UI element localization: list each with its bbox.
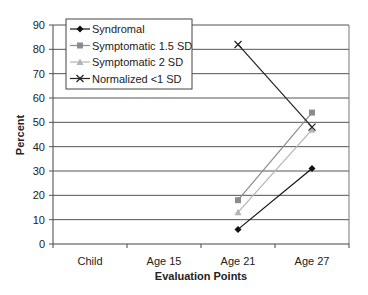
series-symptomatic-1-5-sd [235, 110, 315, 204]
y-tick-label: 90 [33, 19, 45, 31]
x-tick-label: Age 21 [221, 255, 256, 267]
y-tick-label: 10 [33, 214, 45, 226]
series-syndromal [235, 165, 316, 233]
line-chart: 0102030405060708090 ChildAge 15Age 21Age… [0, 0, 368, 295]
y-axis-ticks: 0102030405060708090 [33, 19, 53, 250]
legend: SyndromalSymptomatic 1.5 SDSymptomatic 2… [66, 19, 192, 89]
square-marker-icon [235, 197, 241, 203]
series-normalized-1-sd [235, 41, 316, 131]
square-marker-icon [309, 110, 315, 116]
y-tick-label: 20 [33, 189, 45, 201]
square-marker-icon [77, 43, 83, 49]
x-tick-label: Child [77, 255, 102, 267]
y-axis-title: Percent [14, 114, 26, 155]
legend-label: Symptomatic 1.5 SD [92, 40, 192, 52]
x-axis-title: Evaluation Points [155, 270, 247, 282]
data-series [235, 41, 316, 233]
legend-label: Syndromal [92, 23, 145, 35]
legend-label: Normalized <1 SD [92, 73, 182, 85]
y-tick-label: 40 [33, 141, 45, 153]
y-tick-label: 70 [33, 68, 45, 80]
legend-label: Symptomatic 2 SD [92, 56, 183, 68]
y-tick-label: 30 [33, 165, 45, 177]
x-axis-ticks: ChildAge 15Age 21Age 27 [53, 244, 349, 267]
x-tick-label: Age 27 [295, 255, 330, 267]
y-tick-label: 0 [39, 238, 45, 250]
x-marker-icon [235, 41, 242, 48]
y-tick-label: 50 [33, 116, 45, 128]
y-tick-label: 80 [33, 43, 45, 55]
x-tick-label: Age 15 [147, 255, 182, 267]
y-tick-label: 60 [33, 92, 45, 104]
